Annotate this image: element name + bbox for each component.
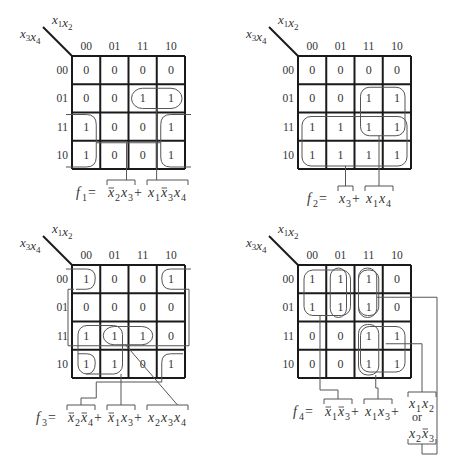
cell-value: 1 — [366, 300, 372, 314]
cell-value: 1 — [309, 272, 315, 286]
row-header: 00 — [57, 273, 69, 285]
connector-line — [81, 382, 96, 405]
row-variables-label: x3x4 — [19, 26, 41, 46]
column-variables-label: x1x2 — [51, 12, 73, 32]
equation-variable: x — [337, 404, 345, 419]
equation-f1: f1 = x2x3 + x1x3x4 — [76, 185, 186, 203]
column-header: 10 — [165, 249, 177, 261]
cell-value: 1 — [337, 120, 343, 134]
kmap-f3: x1x2x3x400011110000111101001000011101101 — [19, 221, 185, 378]
equation-subscript: 4 — [88, 417, 93, 428]
or-label: or — [412, 410, 422, 424]
column-variables-label: x1x2 — [277, 12, 299, 32]
row-header: 01 — [57, 301, 69, 313]
row-variables-label: x3x4 — [245, 26, 267, 46]
equation-variable: x — [160, 185, 168, 200]
equation-subscript: 1 — [372, 411, 377, 422]
equation-variable: x — [80, 410, 88, 425]
variable-subscript: 4 — [262, 36, 267, 46]
column-header: 11 — [137, 249, 148, 261]
equation-subscript: 1 — [115, 417, 120, 428]
equation-subscript: 2 — [115, 192, 120, 203]
cell-value: 0 — [394, 63, 400, 77]
cell-value: 1 — [394, 120, 400, 134]
equation-subscript: 3 — [42, 417, 47, 428]
variable-subscript: 2 — [68, 231, 73, 241]
equation-subscript: 4 — [299, 411, 304, 422]
cell-value: 1 — [394, 148, 400, 162]
cell-value: 0 — [83, 63, 89, 77]
variable-subscript: 2 — [294, 231, 299, 241]
karnaugh-maps-figure: x1x2x3x400011110000111100000001110011001… — [0, 0, 458, 473]
cell-value: 0 — [309, 329, 315, 343]
column-header: 01 — [109, 40, 121, 52]
cell-value: 1 — [394, 357, 400, 371]
column-variables-label: x1x2 — [51, 221, 73, 241]
cell-value: 1 — [140, 329, 146, 343]
connector-line — [320, 316, 338, 400]
cell-value: 0 — [168, 300, 174, 314]
row-header: 11 — [283, 121, 294, 133]
cell-value: 1 — [337, 272, 343, 286]
cell-value: 1 — [366, 91, 372, 105]
cell-value: 0 — [140, 300, 146, 314]
equation-variable: x — [365, 191, 373, 206]
equation-variable: x — [147, 185, 155, 200]
variable-subscript: 2 — [294, 22, 299, 32]
equation-subscript: 1 — [373, 198, 378, 209]
variable-subscript: 2 — [68, 22, 73, 32]
cell-value: 0 — [140, 63, 146, 77]
cell-value: 0 — [140, 272, 146, 286]
cell-value: 1 — [83, 272, 89, 286]
equation-subscript: 4 — [181, 417, 186, 428]
equation-operator: + — [351, 404, 359, 419]
alternative-term: x1x2orx2x3 — [408, 396, 434, 444]
equation-subscript: 3 — [128, 417, 133, 428]
equation-variable: x — [173, 185, 181, 200]
kmap-f4: x1x2x3x400011110000111101110111000110011 — [245, 221, 411, 378]
row-header: 10 — [283, 358, 295, 370]
kmap-f2: x1x2x3x400011110000111100000001111111111 — [245, 12, 411, 169]
cell-value: 0 — [83, 91, 89, 105]
cell-value: 1 — [168, 148, 174, 162]
equation-operator: = — [88, 185, 96, 200]
cell-value: 0 — [366, 63, 372, 77]
equation-subscript: 1 — [332, 411, 337, 422]
equation-operator: + — [391, 404, 399, 419]
cell-value: 1 — [366, 357, 372, 371]
equation-variable: x — [107, 185, 115, 200]
column-header: 00 — [80, 40, 92, 52]
row-header: 11 — [57, 330, 68, 342]
cell-value: 0 — [309, 91, 315, 105]
equation-subscript: 4 — [181, 192, 186, 203]
cell-value: 0 — [111, 91, 117, 105]
row-header: 01 — [57, 92, 69, 104]
equation-variable: x — [67, 410, 75, 425]
equation-subscript: 3 — [385, 411, 390, 422]
equation-subscript: 3 — [429, 433, 434, 444]
equation-subscript: 3 — [345, 411, 350, 422]
cell-value: 0 — [337, 63, 343, 77]
cell-value: 1 — [111, 357, 117, 371]
equation-variable: x — [120, 185, 128, 200]
cell-value: 1 — [366, 329, 372, 343]
equation-subscript: 4 — [386, 198, 391, 209]
column-header: 10 — [391, 249, 403, 261]
row-header: 01 — [283, 301, 295, 313]
column-header: 00 — [306, 40, 318, 52]
equation-operator: = — [48, 410, 56, 425]
equation-variable: x — [173, 410, 181, 425]
cell-value: 1 — [309, 148, 315, 162]
equation-operator: + — [352, 191, 360, 206]
equation-subscript: 2 — [416, 433, 421, 444]
cell-value: 1 — [394, 91, 400, 105]
column-header: 01 — [335, 249, 347, 261]
cell-value: 0 — [140, 148, 146, 162]
equation-subscript: 3 — [168, 192, 173, 203]
cell-value: 1 — [168, 357, 174, 371]
equation-variable: x — [160, 410, 168, 425]
column-header: 00 — [306, 249, 318, 261]
equation-subscript: 3 — [346, 198, 351, 209]
cell-value: 1 — [366, 120, 372, 134]
equation-variable: x — [408, 426, 416, 441]
